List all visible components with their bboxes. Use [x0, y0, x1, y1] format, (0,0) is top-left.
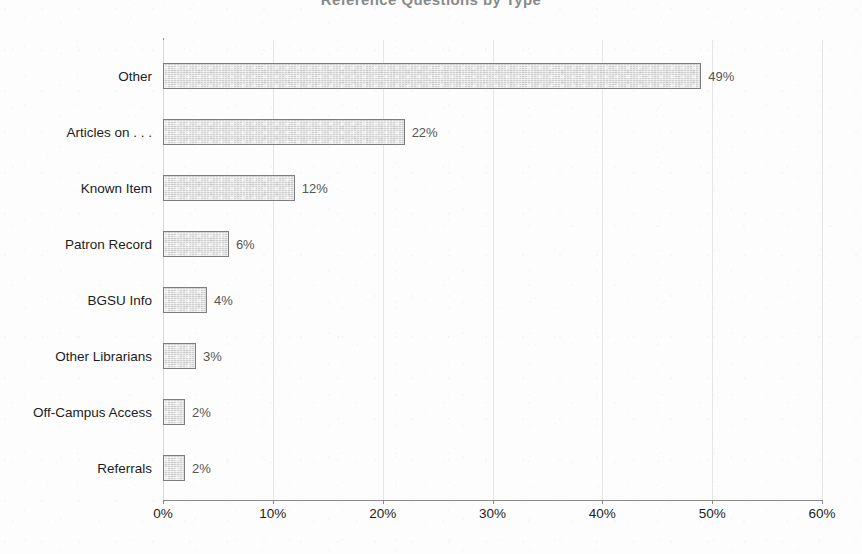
x-tick-label: 50% [699, 506, 726, 521]
gridline-60% [822, 40, 823, 500]
bar[interactable] [163, 231, 229, 257]
x-tick-mark [273, 500, 274, 504]
category-label: Known Item [81, 181, 152, 196]
bar-row: Other49% [163, 48, 822, 104]
bar-value-label: 3% [203, 349, 222, 364]
x-axis-tick-labels: 0%10%20%30%40%50%60% [0, 506, 862, 536]
category-label: Patron Record [65, 237, 152, 252]
x-tick-mark [712, 500, 713, 504]
bar-row: Referrals2% [163, 440, 822, 496]
bar[interactable] [163, 63, 701, 89]
x-tick-label: 40% [589, 506, 616, 521]
chart-title: Reference Questions by Type [0, 0, 862, 8]
bar-row: Known Item12% [163, 160, 822, 216]
bar[interactable] [163, 455, 185, 481]
bar-value-label: 6% [236, 237, 255, 252]
bar-value-label: 4% [214, 293, 233, 308]
x-tick-mark [163, 500, 164, 504]
bar-value-label: 49% [708, 69, 734, 84]
x-tick-label: 60% [808, 506, 835, 521]
bar-value-label: 2% [192, 461, 211, 476]
category-label: Referrals [97, 461, 152, 476]
x-tick-mark [602, 500, 603, 504]
bar-value-label: 22% [412, 125, 438, 140]
chart-page: Reference Questions by Type Other49%Arti… [0, 0, 862, 554]
bar[interactable] [163, 175, 295, 201]
bar[interactable] [163, 343, 196, 369]
x-tick-label: 30% [479, 506, 506, 521]
bar-row: Patron Record6% [163, 216, 822, 272]
bar[interactable] [163, 287, 207, 313]
bar[interactable] [163, 119, 405, 145]
x-tick-label: 0% [153, 506, 173, 521]
x-tick-mark [493, 500, 494, 504]
x-tick-mark [383, 500, 384, 504]
x-tick-label: 10% [259, 506, 286, 521]
plot-area: Other49%Articles on . . .22%Known Item12… [163, 40, 822, 500]
category-label: Off-Campus Access [33, 405, 152, 420]
bar-row: BGSU Info4% [163, 272, 822, 328]
bar-row: Off-Campus Access2% [163, 384, 822, 440]
bar-value-label: 2% [192, 405, 211, 420]
bar-value-label: 12% [302, 181, 328, 196]
bar[interactable] [163, 399, 185, 425]
category-label: Other Librarians [55, 349, 152, 364]
category-label: Articles on . . . [66, 125, 152, 140]
x-tick-mark [822, 500, 823, 504]
category-label: BGSU Info [87, 293, 152, 308]
bar-row: Other Librarians3% [163, 328, 822, 384]
x-tick-label: 20% [369, 506, 396, 521]
category-label: Other [118, 69, 152, 84]
bar-row: Articles on . . .22% [163, 104, 822, 160]
